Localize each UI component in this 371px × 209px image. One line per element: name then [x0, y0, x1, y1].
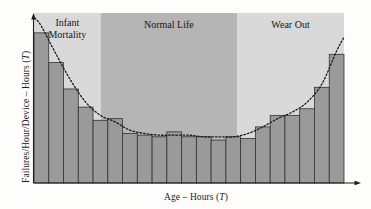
histogram-bar	[64, 89, 79, 183]
bathtub-curve-figure: Failures/Hour/Device – Hours (T) Age – H…	[0, 0, 371, 209]
band-label-normal-life: Normal Life	[144, 19, 194, 30]
histogram-bar	[255, 127, 270, 183]
histogram-bar	[123, 134, 138, 184]
histogram-bar	[196, 137, 211, 183]
histogram-bar	[270, 115, 285, 183]
y-axis-label: Failures/Hour/Device – Hours (T)	[21, 51, 32, 183]
histogram-bar	[300, 109, 315, 183]
band-label-wear-out: Wear Out	[271, 19, 310, 30]
histogram-bar	[226, 137, 241, 183]
histogram-bar	[241, 138, 256, 183]
histogram-bar	[152, 137, 167, 183]
histogram-bar	[49, 63, 64, 183]
histogram-bar	[34, 33, 49, 183]
histogram-bar	[93, 120, 108, 183]
histogram-bar	[137, 135, 152, 183]
chart-canvas: Failures/Hour/Device – Hours (T) Age – H…	[0, 0, 371, 209]
histogram-bar	[167, 132, 182, 183]
histogram-bar	[329, 54, 344, 183]
x-axis-label: Age – Hours (T)	[164, 192, 228, 203]
histogram-bar	[78, 107, 93, 183]
histogram-bar	[182, 137, 197, 183]
histogram-bar	[211, 140, 226, 183]
histogram-bar	[285, 115, 300, 183]
histogram-bar	[108, 119, 123, 183]
histogram-bar	[314, 87, 329, 183]
